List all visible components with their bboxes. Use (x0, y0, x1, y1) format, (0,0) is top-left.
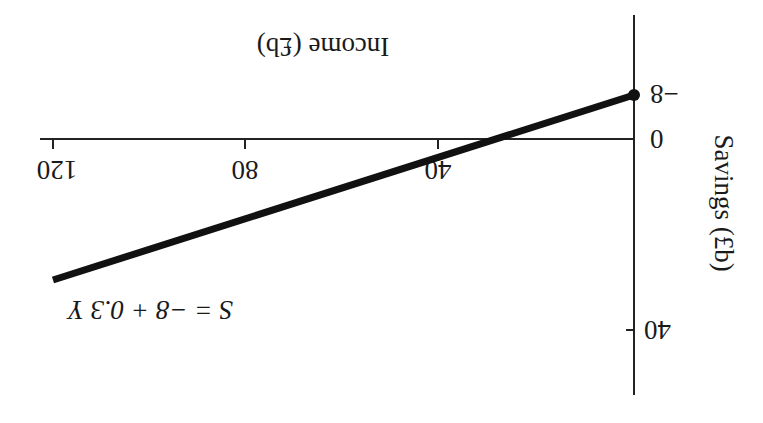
equation-label: S = −8 + 0.3 Y (66, 295, 233, 325)
x-tick-label-80: 80 (232, 155, 259, 185)
savings-function-chart: 40 80 120 Income (£b) 0 −8 40 Savings (£… (0, 0, 763, 423)
y-tick-label-0: 0 (650, 124, 664, 154)
x-axis-title: Income (£b) (257, 32, 390, 62)
y-axis-title: Savings (£b) (709, 134, 739, 271)
intercept-point (628, 89, 640, 101)
y-tick-label-40: 40 (644, 315, 671, 345)
savings-line (53, 95, 634, 280)
chart-canvas: 40 80 120 Income (£b) 0 −8 40 Savings (£… (0, 0, 763, 423)
x-tick-label-120: 120 (37, 155, 78, 185)
y-tick-label-neg8: −8 (650, 79, 679, 109)
